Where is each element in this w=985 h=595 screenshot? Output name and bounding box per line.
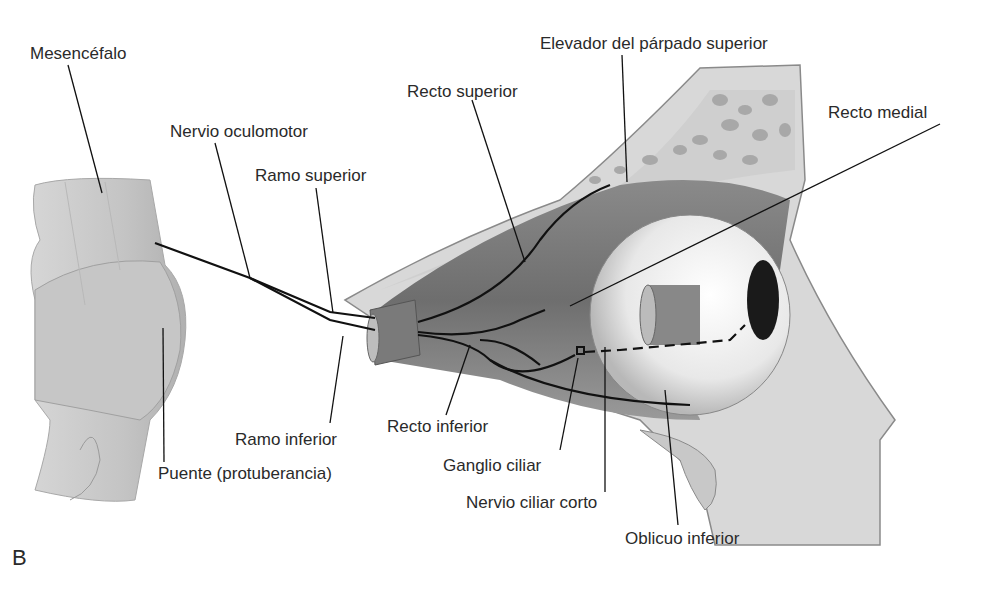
label-ganglio-ciliar: Ganglio ciliar — [443, 457, 541, 474]
panel-letter: B — [12, 545, 27, 571]
label-nervio-ciliar-corto: Nervio ciliar corto — [466, 494, 597, 511]
label-recto-medial: Recto medial — [828, 104, 927, 121]
anatomy-figure: Mesencéfalo Nervio oculomotor Ramo super… — [0, 0, 985, 595]
label-ramo-superior: Ramo superior — [255, 167, 367, 184]
label-oblicuo-inferior: Oblicuo inferior — [625, 530, 739, 547]
eyeball — [590, 215, 790, 415]
label-recto-inferior: Recto inferior — [387, 418, 488, 435]
label-ramo-inferior: Ramo inferior — [235, 431, 337, 448]
label-elevador-parpado: Elevador del párpado superior — [540, 35, 768, 52]
label-recto-superior: Recto superior — [407, 83, 518, 100]
label-puente: Puente (protuberancia) — [158, 465, 332, 482]
label-mesencefalo: Mesencéfalo — [30, 45, 126, 62]
label-nervio-oculomotor: Nervio oculomotor — [170, 123, 308, 140]
